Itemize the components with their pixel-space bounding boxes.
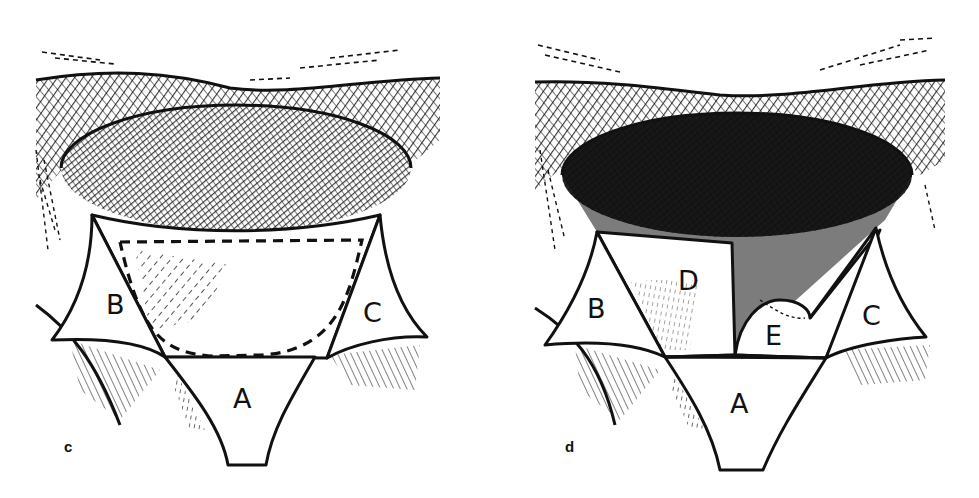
- panel-c: B C A c: [36, 50, 440, 465]
- label-a-d: A: [730, 388, 749, 419]
- label-b-d: B: [587, 293, 606, 324]
- defect-ellipse-c: [61, 105, 411, 231]
- label-c-d: C: [862, 300, 881, 331]
- label-d: D: [678, 265, 699, 296]
- label-a-c: A: [233, 383, 252, 414]
- surgical-flap-figure: B C A c: [0, 0, 979, 498]
- label-e: E: [765, 320, 782, 351]
- panel-label-c: c: [64, 438, 72, 455]
- panel-d: D E B C A d: [535, 38, 945, 470]
- label-b-c: B: [106, 289, 125, 320]
- panel-label-d: d: [565, 438, 574, 455]
- label-c-c: C: [363, 297, 382, 328]
